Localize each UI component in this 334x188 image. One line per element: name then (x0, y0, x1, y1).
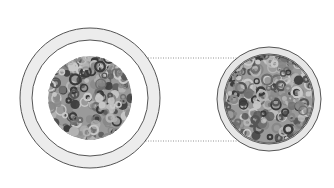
sample-magnification-diagram (0, 0, 334, 188)
left-view-large-ring (20, 28, 160, 168)
right-view-small-ring (217, 47, 321, 151)
